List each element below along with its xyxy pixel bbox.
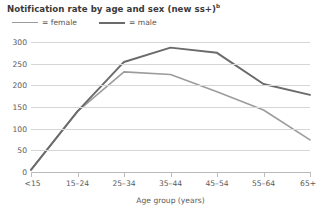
y-axis-tick-label: 0 — [22, 168, 27, 177]
x-axis-tick-label: <15 — [25, 179, 41, 188]
x-axis-tick-label: 25–34 — [112, 179, 135, 188]
y-axis-tick-label: 100 — [13, 124, 28, 133]
legend-item-female: = female — [12, 18, 77, 27]
y-axis-tick-label: 200 — [13, 81, 28, 90]
gridline — [31, 64, 310, 65]
gridline — [31, 107, 310, 108]
legend-line-swatch-female-icon — [12, 22, 38, 23]
y-axis-tick-label: 250 — [13, 59, 28, 68]
x-axis-title: Age group (years) — [31, 196, 310, 205]
chart-title-text: Notification rate by age and sex (new ss… — [7, 4, 216, 14]
x-axis-tick-mark — [217, 172, 218, 177]
x-axis-tick-label: 35–44 — [159, 179, 182, 188]
x-axis-tick-label: 55–64 — [252, 179, 275, 188]
chart-legend: = female = male — [12, 18, 157, 27]
x-axis-tick-label: 45–54 — [205, 179, 228, 188]
series-line-male — [31, 48, 310, 170]
y-axis-tick-label: 300 — [13, 38, 28, 47]
gridline — [31, 85, 310, 86]
x-axis-tick-mark — [78, 172, 79, 177]
x-axis-tick-mark — [31, 172, 32, 177]
legend-label-female: = female — [42, 18, 77, 27]
x-axis-tick-mark — [264, 172, 265, 177]
gridline — [31, 150, 310, 151]
x-axis-tick-label: 65+ — [300, 179, 316, 188]
plot-area: Age group (years) 050100150200250300<151… — [31, 42, 310, 172]
chart-title-footnote-marker: b — [216, 3, 220, 9]
legend-line-swatch-male-icon — [99, 22, 125, 24]
x-axis-tick-mark — [124, 172, 125, 177]
gridline — [31, 129, 310, 130]
x-axis-tick-label: 15–24 — [66, 179, 89, 188]
chart-title: Notification rate by age and sex (new ss… — [7, 3, 220, 14]
chart-container: Notification rate by age and sex (new ss… — [0, 0, 323, 207]
series-line-female — [31, 72, 310, 170]
y-axis-tick-label: 150 — [13, 103, 28, 112]
legend-item-male: = male — [99, 18, 157, 27]
x-axis-tick-mark — [171, 172, 172, 177]
legend-label-male: = male — [129, 18, 157, 27]
gridline — [31, 42, 310, 43]
y-axis-tick-label: 50 — [17, 146, 27, 155]
x-axis-tick-mark — [310, 172, 311, 177]
